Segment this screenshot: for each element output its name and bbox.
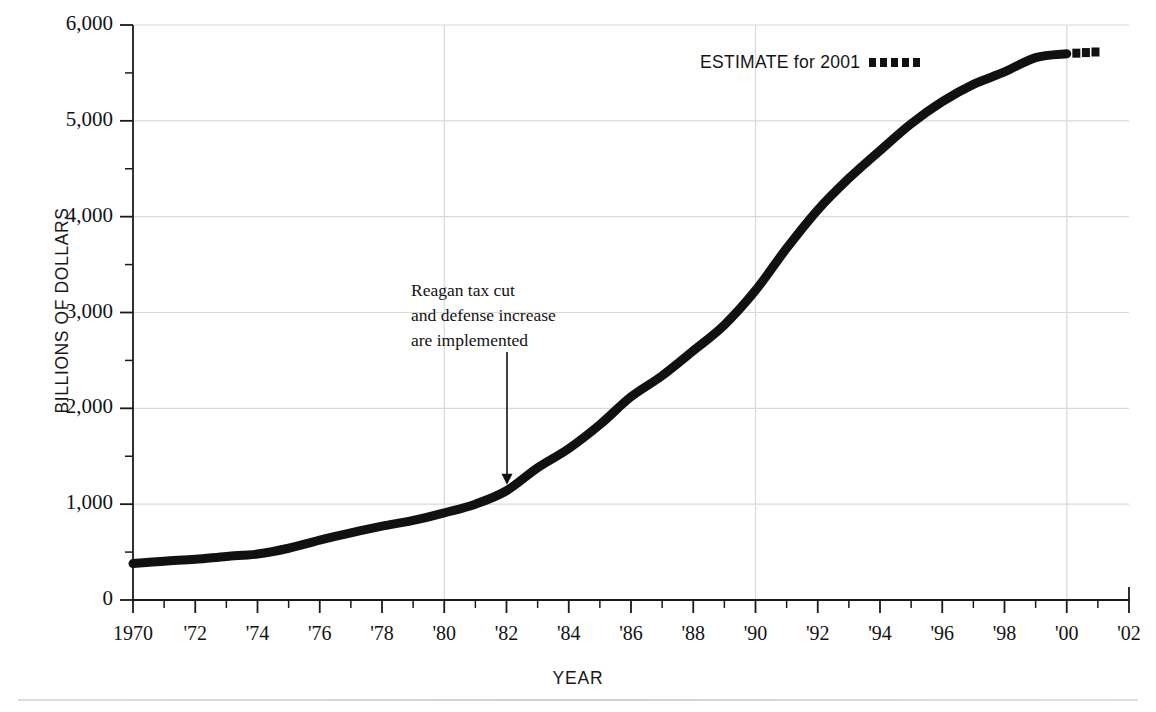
annotation-line-1: Reagan tax cut [411,278,556,303]
reagan-annotation: Reagan tax cut and defense increase are … [411,278,556,353]
chart-legend: ESTIMATE for 2001 [700,52,920,73]
dotted-line-legend-icon [869,58,920,67]
y-tick-label: 4,000 [66,203,113,228]
line-chart-plot [0,0,1156,712]
y-tick-label: 1,000 [66,490,113,515]
y-tick-label: 6,000 [66,11,113,36]
legend-label-estimate: ESTIMATE for 2001 [700,52,860,73]
footer-divider [18,699,1138,701]
annotation-line-2: and defense increase [411,303,556,328]
annotation-arrow-icon [502,352,513,485]
y-tick-label: 5,000 [66,107,113,132]
x-axis-title: YEAR [0,668,1156,689]
annotation-line-3: are implemented [411,328,556,353]
y-axis-ticks [120,25,133,600]
debt-line-series [133,54,1067,564]
estimate-dotted-series [1072,47,1099,57]
y-tick-label: 2,000 [66,394,113,419]
horizontal-gridlines [133,25,1129,504]
x-tick-label: '02 [1089,622,1156,645]
chart-container: BILLIONS OF DOLLARS YEAR 01,0002,0003,00… [0,0,1156,712]
axis-lines [132,25,1129,602]
y-tick-label: 0 [103,586,114,611]
y-tick-label: 3,000 [66,299,113,324]
x-axis-ticks [133,600,1129,613]
